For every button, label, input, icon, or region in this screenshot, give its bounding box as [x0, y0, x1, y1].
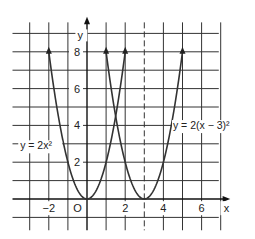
y-axis-label: y [78, 29, 84, 41]
equation-label-y-2x-3-2: y = 2(x − 3)² [173, 119, 230, 131]
x-tick-label: 2 [122, 202, 128, 214]
curve-arrow-icon [180, 47, 186, 54]
y-tick-label: 8 [74, 46, 80, 58]
y-tick-label: 4 [74, 119, 80, 131]
x-tick-label: 4 [160, 202, 166, 214]
x-tick-label: −2 [43, 202, 56, 214]
x-tick-label: 6 [199, 202, 205, 214]
y-tick-label: 2 [74, 156, 80, 168]
y-tick-label: 6 [74, 83, 80, 95]
curve-arrow-icon [103, 47, 109, 54]
curve-arrow-icon [122, 47, 128, 54]
parabola-graph: 2468y−2246Oxy = 2x²y = 2(x − 3)² [0, 0, 255, 239]
x-axis-arrow-icon [223, 196, 231, 202]
x-axis-label: x [224, 202, 230, 214]
curve-arrow-icon [46, 47, 52, 54]
y-axis-arrow-icon [84, 17, 90, 24]
equation-label-y-2x2: y = 2x² [20, 139, 52, 151]
origin-label: O [73, 202, 82, 214]
